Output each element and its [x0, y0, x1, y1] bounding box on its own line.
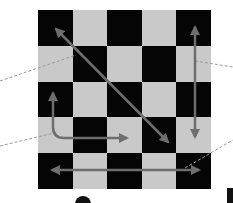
- arrows-overlay: [0, 0, 233, 203]
- leader-line: [0, 55, 76, 81]
- leader-line: [185, 140, 233, 168]
- partial-glyph: [227, 188, 233, 203]
- l-shaped-arrow: [53, 93, 127, 138]
- leader-line: [195, 61, 233, 67]
- diagonal-arrow: [56, 29, 168, 142]
- leader-line: [0, 132, 58, 146]
